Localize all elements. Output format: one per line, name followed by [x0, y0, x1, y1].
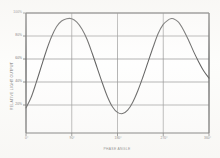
y-tick-label-80: 80% — [2, 34, 22, 37]
x-axis-title: PHASE ANGLE — [67, 147, 167, 151]
x-tick-label-90: 90° — [70, 137, 84, 140]
x-tick-label-180: 180° — [115, 137, 129, 140]
y-axis-title: RELATIVE LIGHT OUTPUT — [10, 62, 14, 110]
y-tick-label-60: 60% — [2, 57, 22, 60]
x-tick-label-270: 270° — [161, 137, 175, 140]
x-tick-label-0: 0° — [25, 137, 39, 140]
y-tick-label-100: 100% — [2, 11, 22, 14]
phase-angle-light-output-chart — [0, 0, 220, 158]
chart-figure: 100% 80% 60% 40% 20% 0° 90° 180° 270° 36… — [0, 0, 220, 158]
x-tick-label-360: 360° — [204, 137, 218, 140]
